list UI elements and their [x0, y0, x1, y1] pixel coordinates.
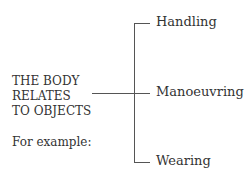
branch-label-manoeuvring: Manoeuvring [156, 84, 244, 99]
branch-label-wearing: Wearing [156, 153, 211, 168]
branch-label-handling: Handling [156, 14, 217, 29]
